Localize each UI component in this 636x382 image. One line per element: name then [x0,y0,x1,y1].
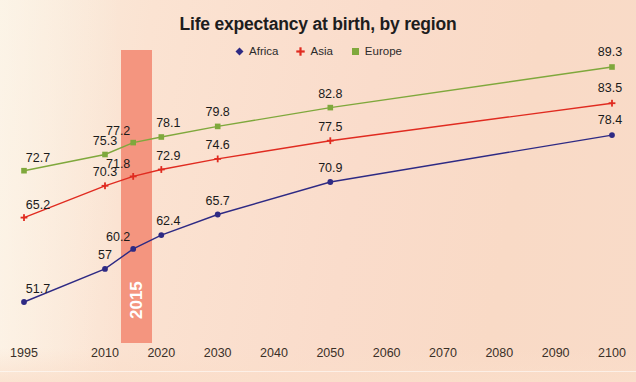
data-point-africa-2100[interactable] [609,132,615,138]
data-point-asia-2050[interactable] [327,137,334,144]
bottom-divider [0,371,636,372]
data-point-europe-2020[interactable] [159,134,165,140]
data-label-africa-1995: 51.7 [26,282,50,296]
data-label-asia-2030: 74.6 [205,138,229,152]
x-axis-tick-2010: 2010 [91,346,119,360]
legend-label-africa: Africa [249,45,278,57]
square-marker-icon [350,46,361,57]
legend-item-africa[interactable]: Africa [234,45,278,57]
x-axis-tick-2090: 2090 [542,346,570,360]
data-label-africa-2100: 78.4 [598,113,622,127]
x-axis-tick-2060: 2060 [373,346,401,360]
data-label-asia-2020: 72.9 [156,149,180,163]
x-axis-tick-2040: 2040 [260,346,288,360]
x-axis-tick-2050: 2050 [316,346,344,360]
page-title: Life expectancy at birth, by region [0,14,636,35]
plot-lines [0,0,636,382]
legend-item-asia[interactable]: Asia [295,45,332,57]
data-label-asia-1995: 65.2 [26,198,50,212]
x-axis: 1995201020202030204020502060207020802090… [0,346,636,370]
diamond-marker-icon [234,46,245,57]
chart-container: Life expectancy at birth, by region Afri… [0,0,636,382]
legend-label-europe: Europe [365,45,402,57]
data-point-africa-2010[interactable] [102,266,108,272]
data-label-asia-2015: 71.8 [106,157,130,171]
data-label-africa-2015: 60.2 [106,230,130,244]
legend-label-asia: Asia [310,45,332,57]
data-label-africa-2050: 70.9 [318,161,342,175]
data-point-asia-2010[interactable] [102,182,109,189]
data-label-europe-2100: 89.3 [598,45,622,59]
data-label-asia-2050: 77.5 [318,120,342,134]
data-label-europe-2015: 77.2 [106,124,130,138]
data-label-europe-2020: 78.1 [156,116,180,130]
x-axis-tick-2080: 2080 [485,346,513,360]
data-point-asia-2020[interactable] [158,166,165,173]
data-label-africa-2020: 62.4 [156,214,180,228]
data-label-europe-2030: 79.8 [205,105,229,119]
data-point-asia-2100[interactable] [609,100,616,107]
data-label-europe-2050: 82.8 [318,87,342,101]
data-point-europe-2030[interactable] [215,124,221,130]
cross-marker-icon [295,46,306,57]
x-axis-tick-1995: 1995 [10,346,38,360]
data-point-africa-2020[interactable] [158,232,164,238]
data-point-africa-2050[interactable] [327,179,333,185]
legend-item-europe[interactable]: Europe [350,45,402,57]
data-label-asia-2100: 83.5 [598,81,622,95]
x-axis-tick-2030: 2030 [204,346,232,360]
x-axis-tick-2100: 2100 [598,346,626,360]
x-axis-tick-2020: 2020 [147,346,175,360]
data-label-africa-2010: 57 [98,248,112,262]
data-point-asia-1995[interactable] [21,214,28,221]
data-point-africa-1995[interactable] [21,299,27,305]
data-point-africa-2030[interactable] [215,212,221,218]
highlight-band-label: 2015 [121,263,152,337]
background-wash-left [0,0,120,382]
highlight-band-2015: 2015 [121,50,152,343]
data-label-africa-2030: 65.7 [205,194,229,208]
data-point-europe-2050[interactable] [328,105,334,111]
data-label-europe-1995: 72.7 [26,151,50,165]
data-point-europe-1995[interactable] [21,168,27,174]
chart-legend: Africa Asia Europe [0,45,636,57]
data-point-asia-2030[interactable] [214,156,221,163]
x-axis-tick-2070: 2070 [429,346,457,360]
data-point-europe-2100[interactable] [609,64,615,70]
